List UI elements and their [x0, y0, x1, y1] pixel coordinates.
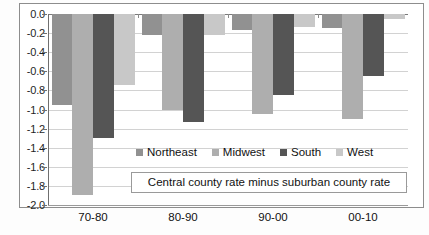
bar-west-80-90 — [204, 14, 225, 35]
figure: 0.0-0.2-0.4-0.6-0.8-1.0-1.2-1.4-1.6-1.8-… — [0, 0, 429, 235]
legend-label-south: South — [291, 146, 321, 158]
x-axis-label-90-00: 90-00 — [258, 210, 287, 224]
x-axis-label-70-80: 70-80 — [78, 210, 107, 224]
legend-item-south: South — [280, 146, 321, 158]
bar-south-70-80 — [93, 14, 114, 138]
group-separator-tick — [318, 14, 319, 18]
bar-west-00-10 — [384, 14, 405, 19]
y-axis-tick — [42, 71, 47, 72]
legend-item-midwest: Midwest — [212, 146, 265, 158]
bar-midwest-80-90 — [162, 14, 183, 110]
legend-swatch-midwest — [212, 149, 219, 156]
group-separator-tick — [228, 14, 229, 18]
group-separator-tick — [138, 14, 139, 18]
y-axis-tick — [42, 205, 47, 206]
bar-northeast-80-90 — [142, 14, 163, 35]
bar-west-90-00 — [294, 14, 315, 27]
y-axis-tick — [42, 186, 47, 187]
y-axis-tick — [42, 129, 47, 130]
bar-northeast-00-10 — [322, 14, 343, 28]
y-axis-tick — [42, 148, 47, 149]
legend-item-west: West — [336, 146, 373, 158]
legend-label-west: West — [347, 146, 373, 158]
bar-northeast-90-00 — [232, 14, 253, 30]
y-axis-tick — [42, 110, 47, 111]
legend-label-northeast: Northeast — [147, 146, 197, 158]
y-axis-labels: 0.0-0.2-0.4-0.6-0.8-1.0-1.2-1.4-1.6-1.8-… — [0, 14, 45, 205]
legend-item-northeast: Northeast — [136, 146, 197, 158]
x-axis-label-80-90: 80-90 — [168, 210, 197, 224]
annotation-box: Central county rate minus suburban count… — [131, 172, 407, 193]
legend-label-midwest: Midwest — [223, 146, 265, 158]
gridline — [48, 205, 408, 206]
bar-south-90-00 — [273, 14, 294, 95]
legend-swatch-northeast — [136, 149, 143, 156]
legend: NortheastMidwestSouthWest — [136, 144, 373, 160]
y-axis-tick — [42, 33, 47, 34]
bar-south-80-90 — [183, 14, 204, 122]
y-axis-tick — [42, 52, 47, 53]
bar-midwest-90-00 — [252, 14, 273, 114]
bar-midwest-70-80 — [72, 14, 93, 195]
y-axis-tick — [42, 14, 47, 15]
x-axis-labels: 70-8080-9090-0000-10 — [48, 210, 408, 230]
bar-group — [48, 14, 138, 205]
bar-south-00-10 — [363, 14, 384, 76]
legend-swatch-west — [336, 149, 343, 156]
annotation-text: Central county rate minus suburban count… — [148, 176, 390, 189]
bar-midwest-00-10 — [342, 14, 363, 119]
bar-west-70-80 — [114, 14, 135, 85]
y-axis-tick — [42, 167, 47, 168]
legend-swatch-south — [280, 149, 287, 156]
bar-northeast-70-80 — [52, 14, 73, 105]
x-axis-label-00-10: 00-10 — [348, 210, 377, 224]
y-axis-tick — [42, 90, 47, 91]
